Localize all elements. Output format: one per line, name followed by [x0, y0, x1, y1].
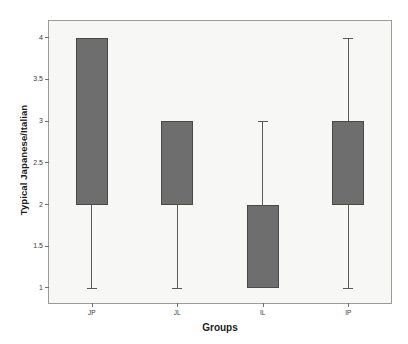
y-axis-tick: 1.5: [23, 241, 49, 251]
lower-whisker-line: [348, 205, 349, 288]
y-axis-tick-mark: [45, 287, 49, 288]
y-axis-tick-label: 3: [23, 116, 43, 126]
y-axis-tick: 1: [23, 283, 49, 293]
x-axis-tick-mark: [92, 303, 93, 307]
lower-whisker-line: [177, 205, 178, 288]
box-rect[interactable]: [161, 121, 193, 204]
plot-area: 11.522.533.54JPJLILIP: [48, 20, 392, 304]
y-axis-tick-mark: [45, 162, 49, 163]
boxplot-chart: Typical Japanese/Italian 11.522.533.54JP…: [0, 0, 408, 344]
x-axis-tick-label-il: IL: [243, 309, 283, 316]
y-axis-tick-label: 3.5: [23, 74, 43, 84]
y-axis-tick-mark: [45, 204, 49, 205]
y-axis-tick: 4: [23, 33, 49, 43]
y-axis-tick-mark: [45, 246, 49, 247]
x-axis-title: Groups: [48, 322, 392, 333]
y-axis-tick-label: 2.5: [23, 158, 43, 168]
upper-whisker-line: [262, 121, 263, 204]
y-axis-tick-mark: [45, 37, 49, 38]
lower-whisker-cap: [172, 288, 182, 289]
upper-whisker-line: [348, 38, 349, 121]
y-axis-tick: 2.5: [23, 158, 49, 168]
upper-whisker-cap: [343, 38, 353, 39]
y-axis-tick-label: 1: [23, 283, 43, 293]
box-rect[interactable]: [247, 205, 279, 288]
x-axis-tick-label-jl: JL: [157, 309, 197, 316]
y-axis-tick: 3.5: [23, 74, 49, 84]
lower-whisker-cap: [87, 288, 97, 289]
y-axis-tick-label: 4: [23, 33, 43, 43]
x-axis-tick-label-jp: JP: [72, 309, 112, 316]
x-axis-tick-label-ip: IP: [328, 309, 368, 316]
y-axis-tick: 2: [23, 200, 49, 210]
y-axis-tick-label: 1.5: [23, 241, 43, 251]
y-axis-tick: 3: [23, 116, 49, 126]
box-rect[interactable]: [332, 121, 364, 204]
y-axis-tick-mark: [45, 121, 49, 122]
plot-inner: 11.522.533.54JPJLILIP: [49, 21, 391, 303]
y-axis-tick-mark: [45, 79, 49, 80]
x-axis-tick-mark: [263, 303, 264, 307]
box-rect[interactable]: [76, 38, 108, 205]
lower-whisker-line: [91, 205, 92, 288]
upper-whisker-cap: [258, 121, 268, 122]
x-axis-tick-mark: [177, 303, 178, 307]
x-axis-tick-mark: [348, 303, 349, 307]
lower-whisker-cap: [343, 288, 353, 289]
y-axis-tick-label: 2: [23, 200, 43, 210]
